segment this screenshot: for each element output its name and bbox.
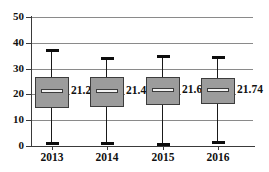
upper-whisker-cap [46, 49, 59, 52]
median-line [152, 88, 174, 92]
x-tick-mark-2014 [107, 146, 108, 150]
y-tick-label-20: 20 [0, 88, 24, 99]
y-tick-label-10: 10 [0, 114, 24, 125]
gridline-10 [31, 120, 253, 121]
lower-whisker [217, 104, 218, 141]
lower-whisker [51, 108, 52, 142]
median-line [207, 88, 229, 92]
median-line [41, 89, 63, 93]
lower-whisker-cap [46, 142, 59, 145]
x-tick-mark-2015 [163, 146, 164, 150]
x-tick-label-2015: 2015 [141, 151, 185, 164]
y-tick-label-40: 40 [0, 37, 24, 48]
upper-whisker [106, 57, 107, 78]
upper-whisker [162, 55, 163, 77]
gridline-40 [31, 43, 253, 44]
median-value-label-2016: 21.74 [236, 83, 264, 95]
y-tick-label-30: 30 [0, 63, 24, 74]
upper-whisker [217, 56, 218, 78]
lower-whisker-cap [101, 142, 114, 145]
lower-whisker-cap [212, 141, 225, 144]
lower-whisker [106, 107, 107, 143]
box-plot-chart: 01020304050 21.2621.4621.6921.74 2013201… [0, 0, 269, 172]
x-tick-mark-2013 [52, 146, 53, 150]
upper-whisker-cap [101, 57, 114, 60]
y-tick-label-50: 50 [0, 11, 24, 22]
lower-whisker [162, 105, 163, 142]
x-tick-label-2013: 2013 [30, 151, 74, 164]
y-axis-line [31, 16, 32, 147]
x-tick-label-2016: 2016 [196, 151, 240, 164]
gridline-50 [31, 17, 253, 18]
x-tick-label-2014: 2014 [85, 151, 129, 164]
upper-whisker-cap [212, 56, 225, 59]
upper-whisker-cap [157, 55, 170, 58]
chart-title-remnant [150, 0, 260, 5]
upper-whisker [51, 49, 52, 76]
x-axis-line [26, 146, 255, 147]
y-tick-label-0: 0 [0, 140, 24, 151]
gridline-30 [31, 69, 253, 70]
median-line [96, 89, 118, 93]
x-tick-mark-2016 [218, 146, 219, 150]
